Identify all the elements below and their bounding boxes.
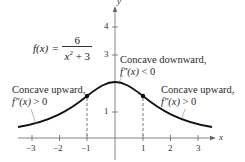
x-tick-label: −2 <box>53 143 63 153</box>
inflection-point-right <box>141 94 145 98</box>
x-tick-label: −3 <box>26 143 36 153</box>
y-axis-label: y <box>117 0 121 6</box>
x-axis-label: x <box>219 132 223 142</box>
formula-equals: = <box>52 42 58 54</box>
graph-canvas <box>0 0 245 162</box>
x-tick-label: 3 <box>196 143 201 153</box>
y-tick-label: 1 <box>104 106 109 116</box>
y-axis-arrow-icon <box>113 6 117 12</box>
annotation-concave-upward-left: Concave upward, f″(x) > 0 <box>12 84 85 108</box>
x-tick-label: 1 <box>141 143 146 153</box>
annotation-concave-downward: Concave downward, f″(x) < 0 <box>120 54 206 78</box>
function-formula: f(x) = 6 x2 + 3 <box>33 34 92 62</box>
formula-numerator: 6 <box>73 34 83 46</box>
leader-right <box>182 109 185 118</box>
x-tick-label: −1 <box>81 143 91 153</box>
x-axis-arrow-icon <box>210 136 216 140</box>
annotation-concave-upward-right: Concave upward, f″(x) > 0 <box>161 84 234 108</box>
formula-denominator: x2 + 3 <box>62 46 92 62</box>
y-tick-label: 3 <box>104 49 109 59</box>
formula-lhs: f(x) <box>33 42 48 54</box>
leader-left <box>31 109 36 124</box>
x-tick-label: 2 <box>168 143 173 153</box>
formula-fraction: 6 x2 + 3 <box>62 34 92 62</box>
y-tick-label: 4 <box>104 21 109 31</box>
